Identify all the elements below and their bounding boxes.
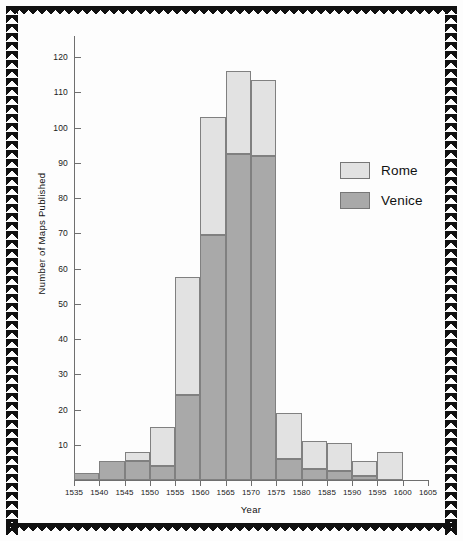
- bar-segment-venice-1590: [352, 476, 377, 480]
- bar-segment-venice-1570: [251, 156, 276, 480]
- bar-segment-rome-1580: [302, 441, 327, 469]
- bar-segment-rome-1570: [251, 80, 276, 156]
- bar-segment-venice-1565: [226, 154, 251, 480]
- bar-group-1575: [276, 22, 301, 480]
- bar-segment-venice-1540: [99, 461, 124, 480]
- bar-segment-rome-1595: [377, 452, 402, 480]
- decorative-sawtooth-border-left: [6, 6, 18, 535]
- bars-layer: [22, 22, 441, 519]
- y-axis-title: Number of Maps Published: [36, 129, 47, 339]
- plot-area: 102030405060708090100110120 153515401545…: [22, 22, 441, 519]
- bar-group-1560: [200, 22, 225, 480]
- legend-item-venice: Venice: [340, 192, 423, 209]
- bar-segment-venice-1535: [74, 473, 99, 480]
- bar-group-1540: [99, 22, 124, 480]
- bar-segment-rome-1555: [175, 277, 200, 395]
- bar-segment-venice-1580: [302, 469, 327, 480]
- decorative-sawtooth-border-top: [6, 6, 457, 18]
- bar-group-1555: [175, 22, 200, 480]
- bar-segment-venice-1575: [276, 459, 301, 480]
- bar-group-1570: [251, 22, 276, 480]
- bar-segment-venice-1555: [175, 395, 200, 480]
- bar-segment-rome-1565: [226, 71, 251, 154]
- legend-swatch-venice: [340, 192, 370, 209]
- bar-segment-venice-1585: [327, 471, 352, 480]
- legend-label-venice: Venice: [381, 193, 423, 208]
- x-axis-title: Year: [74, 504, 428, 515]
- bar-segment-venice-1545: [125, 461, 150, 480]
- bar-group-1535: [74, 22, 99, 480]
- decorative-sawtooth-border-bottom: [6, 523, 457, 535]
- bar-group-1595: [377, 22, 402, 480]
- chart-legend: Rome Venice: [340, 162, 423, 222]
- bar-segment-venice-1560: [200, 235, 225, 480]
- bar-segment-rome-1545: [125, 452, 150, 461]
- bar-group-1545: [125, 22, 150, 480]
- bar-segment-rome-1550: [150, 427, 175, 466]
- bar-segment-rome-1585: [327, 443, 352, 471]
- legend-swatch-rome: [340, 162, 370, 179]
- bar-segment-rome-1560: [200, 117, 225, 235]
- bar-segment-rome-1575: [276, 413, 301, 459]
- figure-container: 102030405060708090100110120 153515401545…: [0, 0, 463, 541]
- bar-group-1585: [327, 22, 352, 480]
- bar-group-1550: [150, 22, 175, 480]
- legend-item-rome: Rome: [340, 162, 423, 179]
- bar-segment-rome-1590: [352, 461, 377, 477]
- bar-group-1565: [226, 22, 251, 480]
- bar-segment-venice-1550: [150, 466, 175, 480]
- decorative-sawtooth-border-right: [445, 6, 457, 535]
- bar-group-1590: [352, 22, 377, 480]
- legend-label-rome: Rome: [381, 163, 418, 178]
- bar-group-1580: [302, 22, 327, 480]
